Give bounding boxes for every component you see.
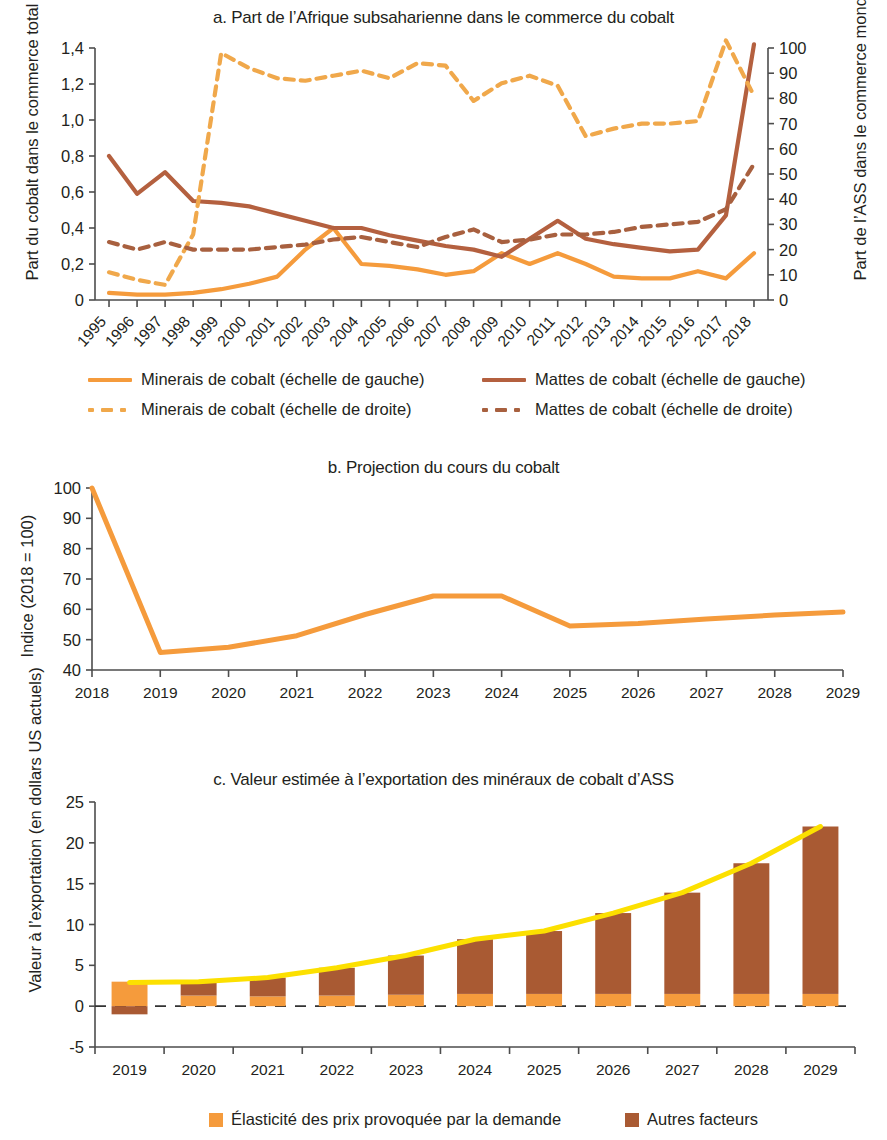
- axis-tick-label: 2018: [719, 313, 755, 350]
- axis-tick-label: 2026: [596, 1061, 630, 1078]
- legend-c-item-1: Autres facteurs: [625, 1110, 758, 1129]
- axis-tick-label: 0: [779, 291, 788, 309]
- panel-c-plot: -505101520252019202020212022202320242025…: [0, 792, 887, 1102]
- axis-tick-label: 2028: [734, 1061, 768, 1078]
- axis-tick-label: 2019: [143, 684, 177, 701]
- axis-tick-label: 1997: [130, 313, 166, 350]
- legend-a-item-3: Mattes de cobalt (échelle de droite): [482, 400, 793, 419]
- axis-tick-label: 2020: [211, 684, 246, 701]
- bar-segment-other: [733, 863, 769, 994]
- panel-b: b. Projection du cours du cobalt Indice …: [0, 458, 887, 738]
- axis-tick-label: 2000: [214, 312, 250, 349]
- axis-tick-label: 5: [75, 956, 84, 974]
- legend-a-item-1: Mattes de cobalt (échelle de gauche): [482, 370, 806, 389]
- legend-a-item-2: Minerais de cobalt (échelle de droite): [88, 400, 412, 419]
- legend-dashed-swatch: [88, 408, 132, 412]
- axis-tick-label: 10: [779, 266, 797, 284]
- bar-segment-other: [526, 931, 562, 994]
- axis-tick-label: 2018: [75, 684, 109, 701]
- axis-tick-label: 2025: [553, 684, 587, 701]
- bar-segment-elasticity: [250, 996, 286, 1006]
- axis-tick-label: 2024: [458, 1061, 493, 1078]
- bar-segment-elasticity: [526, 994, 562, 1006]
- bar-segment-elasticity: [733, 994, 769, 1006]
- axis-tick-label: 60: [63, 600, 81, 618]
- panel-a: a. Part de l’Afrique subsaharienne dans …: [0, 8, 887, 438]
- series-line-3: [109, 164, 754, 250]
- axis-tick-label: 2001: [242, 313, 278, 350]
- bar-segment-elasticity: [112, 982, 148, 1007]
- series-line-0: [92, 488, 843, 652]
- axis-tick-label: 2025: [527, 1061, 561, 1078]
- bar-segment-elasticity: [595, 994, 631, 1006]
- bar-segment-other: [457, 939, 493, 994]
- bar-segment-other: [112, 1006, 148, 1014]
- axis-tick-label: 1995: [74, 313, 110, 350]
- axis-tick-label: 2017: [690, 313, 726, 350]
- panel-a-title: a. Part de l’Afrique subsaharienne dans …: [0, 8, 887, 28]
- axis-tick-label: 2014: [606, 312, 642, 349]
- axis-tick-label: 1,2: [61, 75, 84, 93]
- axis-tick-label: 100: [53, 479, 81, 497]
- axis-tick-label: 1,0: [61, 111, 84, 129]
- panel-b-plot: 4050607080901002018201920202021202220232…: [0, 480, 887, 730]
- legend-square-swatch: [625, 1113, 639, 1127]
- bar-segment-other: [664, 893, 700, 994]
- legend-a-item-0: Minerais de cobalt (échelle de gauche): [88, 370, 424, 389]
- legend-c-label-1: Autres facteurs: [647, 1110, 758, 1129]
- bar-segment-elasticity: [319, 996, 355, 1007]
- axis-tick-label: 2019: [112, 1061, 146, 1078]
- axis-tick-label: 0: [75, 291, 84, 309]
- axis-tick-label: 50: [63, 631, 81, 649]
- axis-tick-label: 2006: [382, 313, 418, 350]
- axis-tick-label: 2027: [689, 684, 723, 701]
- axis-tick-label: 0,8: [61, 147, 84, 165]
- axis-tick-label: 2010: [494, 312, 530, 349]
- axis-tick-label: 2022: [320, 1061, 354, 1078]
- legend-a-label-2: Minerais de cobalt (échelle de droite): [141, 400, 412, 419]
- panel-a-plot: 00,20,40,60,81,01,21,4010203040506070809…: [0, 30, 887, 360]
- legend-a-label-1: Mattes de cobalt (échelle de gauche): [535, 370, 806, 389]
- axis-tick-label: 2020: [181, 1061, 216, 1078]
- axis-tick-label: 2009: [466, 313, 502, 350]
- axis-tick-label: 2027: [665, 1061, 699, 1078]
- axis-tick-label: 2029: [826, 684, 860, 701]
- axis-tick-label: 2029: [803, 1061, 837, 1078]
- panel-c-title: c. Valeur estimée à l’exportation des mi…: [0, 770, 887, 790]
- bar-segment-elasticity: [802, 994, 838, 1006]
- axis-tick-label: 2007: [410, 313, 446, 350]
- legend-line-swatch: [482, 378, 526, 382]
- legend-a-label-3: Mattes de cobalt (échelle de droite): [535, 400, 793, 419]
- axis-tick-label: 20: [66, 834, 84, 852]
- axis-tick-label: 0: [75, 997, 84, 1015]
- legend-c-item-0: Élasticité des prix provoquée par la dem…: [209, 1110, 561, 1129]
- axis-tick-label: 25: [66, 793, 84, 811]
- axis-tick-label: 2023: [416, 684, 450, 701]
- axis-tick-label: 2016: [662, 313, 698, 350]
- axis-tick-label: 2026: [621, 684, 655, 701]
- axis-tick-label: 20: [779, 241, 797, 259]
- axis-tick-label: 0,4: [61, 219, 84, 237]
- axis-tick-label: 90: [779, 64, 797, 82]
- axis-tick-label: 60: [779, 140, 797, 158]
- axis-tick-label: 10: [66, 916, 84, 934]
- axis-tick-label: 80: [63, 540, 81, 558]
- axis-tick-label: 2012: [550, 313, 586, 350]
- axis-tick-label: 1998: [158, 313, 194, 350]
- bar-segment-other: [802, 827, 838, 994]
- axis-tick-label: 2005: [354, 313, 390, 350]
- axis-tick-label: 15: [66, 875, 84, 893]
- axis-tick-label: 2028: [757, 684, 791, 701]
- axis-tick-label: 40: [63, 661, 81, 679]
- axis-tick-label: 80: [779, 89, 797, 107]
- bar-segment-elasticity: [388, 995, 424, 1006]
- series-line-0: [109, 228, 754, 295]
- axis-tick-label: 90: [63, 509, 81, 527]
- axis-tick-label: 2004: [326, 312, 362, 349]
- axis-tick-label: -5: [69, 1038, 84, 1056]
- axis-tick-label: 1996: [102, 313, 138, 350]
- axis-tick-label: 2002: [270, 313, 306, 350]
- axis-tick-label: 2013: [578, 313, 614, 350]
- axis-tick-label: 70: [779, 115, 797, 133]
- axis-tick-label: 2023: [389, 1061, 423, 1078]
